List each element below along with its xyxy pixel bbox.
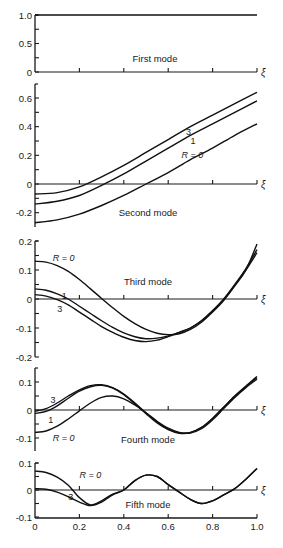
y-tick-label: 0.1 bbox=[19, 458, 32, 469]
y-tick-label: -0.1 bbox=[16, 323, 32, 334]
y-tick-label: 0.2 bbox=[19, 236, 32, 247]
curve-r-3 bbox=[35, 253, 257, 342]
panel-title: Fifth mode bbox=[126, 499, 171, 510]
panel-title: First mode bbox=[133, 53, 178, 64]
x-tick-label: 0 bbox=[32, 521, 37, 532]
xi-symbol: ξ bbox=[261, 485, 266, 497]
y-tick-label: 0 bbox=[27, 485, 32, 496]
curve-label: R = 0 bbox=[79, 470, 101, 480]
curve-label: 1 bbox=[62, 291, 67, 301]
curve-label: 1 bbox=[190, 136, 195, 146]
panel-title: Third mode bbox=[124, 276, 172, 287]
panel-title: Second mode bbox=[119, 207, 178, 218]
y-tick-label: 0.6 bbox=[19, 93, 32, 104]
curve-label: 3 bbox=[68, 492, 73, 502]
curve-label: R = 0 bbox=[182, 150, 204, 160]
curve-label: 3 bbox=[57, 304, 62, 314]
panel-5: -0.100.100.20.40.60.81.0ξFifth modeR = 0… bbox=[16, 458, 266, 533]
curve-label: 3 bbox=[51, 395, 56, 405]
y-tick-label: 0 bbox=[27, 179, 32, 190]
xi-symbol: ξ bbox=[261, 405, 266, 417]
y-tick-label: 0.1 bbox=[19, 265, 32, 276]
curve-r-1 bbox=[35, 378, 257, 434]
curve-r-3 bbox=[35, 92, 257, 194]
curve-label: R = 0 bbox=[53, 253, 75, 263]
y-tick-label: 0 bbox=[27, 294, 32, 305]
y-tick-label: -0.2 bbox=[16, 207, 32, 218]
x-tick-label: 0.8 bbox=[206, 521, 219, 532]
y-tick-label: 0.5 bbox=[19, 38, 32, 49]
xi-symbol: ξ bbox=[261, 179, 266, 191]
y-tick-label: 0.2 bbox=[19, 150, 32, 161]
y-tick-label: -0.1 bbox=[16, 433, 32, 444]
panel-4: -0.100.1ξFourth mode31R = 0 bbox=[16, 368, 266, 451]
curve-label: 1 bbox=[48, 415, 53, 425]
curve-r-3 bbox=[35, 376, 257, 433]
panel-1: 00.51.0ξFirst mode bbox=[19, 10, 266, 80]
y-tick-label: 0.1 bbox=[19, 377, 32, 388]
y-tick-label: -0.2 bbox=[16, 352, 32, 363]
mode-shapes-figure: 00.51.0ξFirst mode-0.200.20.40.6ξSecond … bbox=[0, 0, 283, 548]
y-tick-label: 0 bbox=[27, 67, 32, 78]
x-tick-label: 0.4 bbox=[117, 521, 130, 532]
x-tick-label: 1.0 bbox=[250, 521, 263, 532]
y-tick-label: -0.1 bbox=[16, 512, 32, 523]
panel-title: Fourth mode bbox=[121, 434, 175, 445]
curve-label: R = 0 bbox=[53, 433, 75, 443]
x-tick-label: 0.6 bbox=[162, 521, 175, 532]
y-tick-label: 0 bbox=[27, 405, 32, 416]
panel-2: -0.200.20.40.6ξSecond mode31R = 0 bbox=[16, 84, 266, 227]
xi-symbol: ξ bbox=[261, 294, 266, 306]
xi-symbol: ξ bbox=[261, 67, 266, 79]
x-tick-label: 0.2 bbox=[73, 521, 86, 532]
y-tick-label: 0.4 bbox=[19, 121, 32, 132]
panel-3: -0.2-0.100.10.2ξThird modeR = 013 bbox=[16, 236, 266, 363]
y-tick-label: 1.0 bbox=[19, 10, 32, 21]
